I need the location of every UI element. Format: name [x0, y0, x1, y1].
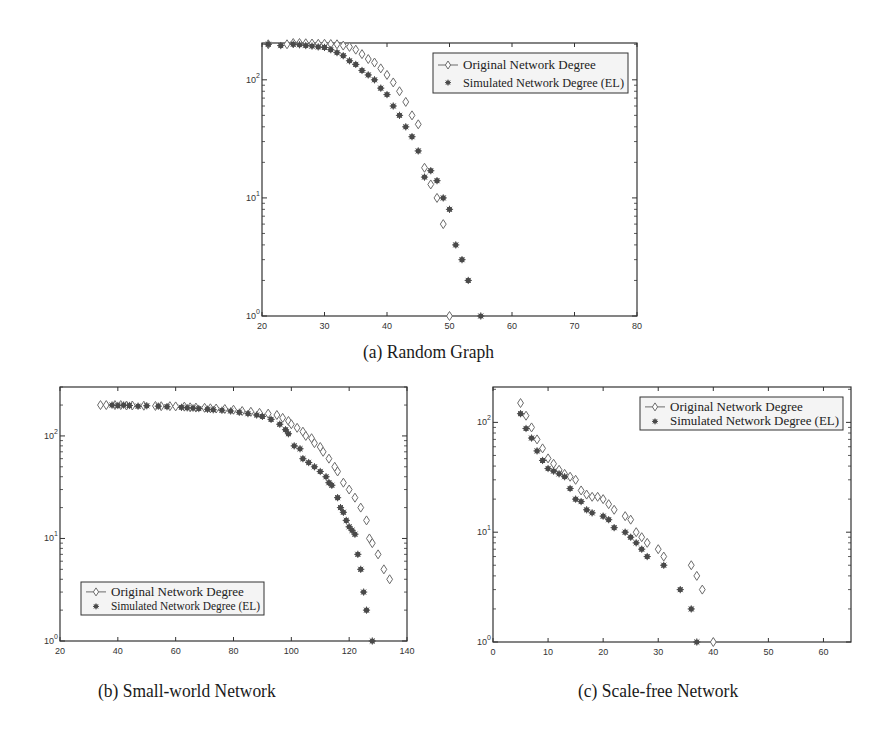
simulated-point: [360, 588, 367, 595]
original-point: [545, 454, 551, 463]
x-tick-label: 30: [653, 647, 663, 657]
simulated-point: [321, 44, 328, 51]
original-point: [265, 409, 271, 418]
original-point: [397, 87, 403, 96]
original-point: [340, 478, 346, 487]
simulated-point: [259, 413, 266, 420]
chart-b: 20406080100120140100101102Original Netwo…: [44, 387, 415, 656]
simulated-point: [265, 41, 272, 48]
original-point: [551, 459, 557, 468]
caption-a: (a) Random Graph: [363, 341, 494, 363]
original-point: [578, 486, 584, 495]
simulated-point: [693, 638, 700, 645]
simulated-point: [539, 457, 546, 464]
original-point: [384, 70, 390, 79]
x-tick-label: 40: [708, 647, 718, 657]
y-tick-label: 10: [246, 75, 256, 85]
original-point: [375, 550, 381, 559]
original-point: [173, 402, 179, 411]
simulated-point: [377, 85, 384, 92]
simulated-point: [402, 123, 409, 130]
chart-a: 20304050607080100101102Original Network …: [246, 39, 642, 332]
x-tick-label: 20: [598, 647, 608, 657]
simulated-point: [305, 459, 312, 466]
simulated-point: [163, 403, 170, 410]
simulated-point: [285, 430, 292, 437]
simulated-point: [334, 494, 341, 501]
simulated-point: [343, 517, 350, 524]
simulated-point: [605, 516, 612, 523]
original-point: [600, 495, 606, 504]
svg-text:2: 2: [54, 428, 58, 435]
simulated-point: [390, 102, 397, 109]
y-tick-label: 10: [246, 311, 256, 321]
simulated-point: [561, 473, 568, 480]
simulated-point: [446, 206, 453, 213]
simulated-point: [452, 241, 459, 248]
original-point: [103, 401, 109, 410]
simulated-point: [352, 61, 359, 68]
original-point: [699, 585, 705, 594]
original-point: [518, 399, 524, 408]
simulated-point: [296, 445, 303, 452]
original-point: [359, 50, 365, 59]
x-tick-label: 60: [171, 646, 181, 656]
legend-a: Original Network DegreeSimulated Network…: [433, 53, 628, 93]
original-point: [584, 490, 590, 499]
original-point: [529, 423, 535, 432]
x-tick-label: 140: [399, 646, 414, 656]
simulated-point: [365, 71, 372, 78]
simulated-point: [134, 403, 141, 410]
simulated-point: [421, 174, 428, 181]
simulated-point: [317, 468, 324, 475]
svg-text:1: 1: [256, 190, 260, 197]
original-point: [694, 571, 700, 580]
original-point: [274, 410, 280, 419]
original-point: [633, 528, 639, 537]
original-point: [334, 40, 340, 49]
original-point: [440, 220, 446, 229]
plots-canvas: 20304050607080100101102Original Network …: [0, 0, 894, 738]
original-point: [710, 638, 716, 647]
original-point: [540, 444, 546, 453]
original-point: [365, 55, 371, 64]
simulated-point: [415, 147, 422, 154]
chart-c: 0102030405060100101102Original Network D…: [477, 387, 851, 657]
x-tick-label: 20: [257, 321, 267, 331]
simulated-point: [290, 41, 297, 48]
svg-text:0: 0: [54, 633, 58, 640]
simulated-point: [371, 76, 378, 83]
simulated-point: [677, 586, 684, 593]
original-point: [353, 45, 359, 54]
simulated-point: [210, 406, 217, 413]
simulated-point: [622, 529, 629, 536]
original-point: [447, 312, 453, 321]
simulated-point: [227, 407, 234, 414]
simulated-point: [253, 411, 260, 418]
x-tick-label: 0: [490, 647, 495, 657]
simulated-point: [155, 403, 162, 410]
simulated-point: [333, 49, 340, 56]
original-point: [688, 561, 694, 570]
original-point: [403, 97, 409, 106]
original-point: [422, 163, 428, 172]
simulated-point: [627, 534, 634, 541]
original-point: [98, 401, 104, 410]
x-tick-label: 20: [55, 646, 65, 656]
legend-c: Original Network DegreeSimulated Network…: [640, 397, 843, 430]
simulated-point: [396, 112, 403, 119]
original-point: [364, 516, 370, 525]
original-point: [628, 515, 634, 524]
simulated-point: [358, 67, 365, 74]
legend-label-original: Original Network Degree: [463, 57, 596, 72]
simulated-point: [299, 455, 306, 462]
x-tick-label: 70: [569, 321, 579, 331]
y-tick-label: 10: [44, 636, 54, 646]
original-point: [294, 423, 300, 432]
simulated-point: [236, 409, 243, 416]
svg-text:0: 0: [256, 308, 260, 315]
x-tick-label: 80: [228, 646, 238, 656]
y-tick-label: 10: [477, 527, 487, 537]
simulated-point: [244, 410, 251, 417]
original-point: [606, 500, 612, 509]
